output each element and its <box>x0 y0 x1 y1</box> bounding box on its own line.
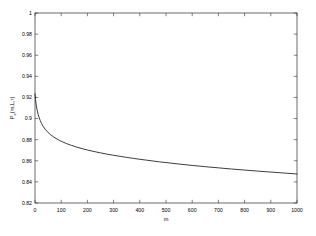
x-tick-label: 600 <box>188 207 197 213</box>
x-tick-label: 700 <box>214 207 223 213</box>
y-tick-label: 0.9 <box>25 115 32 121</box>
x-tick-label: 1000 <box>291 207 303 213</box>
data-series-curve <box>35 94 297 174</box>
figure-canvas: 01002003004005006007008009001000 0.820.8… <box>0 0 316 236</box>
y-tick-label: 0.82 <box>22 200 32 206</box>
x-tick-labels: 01002003004005006007008009001000 <box>34 207 303 213</box>
x-tick-label: 800 <box>240 207 249 213</box>
y-tick-label: 0.94 <box>22 73 32 79</box>
y-tick-label: 1 <box>29 10 32 16</box>
y-tick-label: 0.98 <box>22 31 32 37</box>
x-tick-label: 900 <box>266 207 275 213</box>
x-axis-label: m <box>164 216 169 222</box>
x-tick-label: 200 <box>83 207 92 213</box>
y-tick-labels: 0.820.840.860.880.90.920.940.960.981 <box>22 10 32 206</box>
y-tick-label: 0.84 <box>22 179 32 185</box>
x-tick-label: 500 <box>162 207 171 213</box>
x-tick-label: 400 <box>135 207 144 213</box>
tick-marks <box>35 13 297 203</box>
y-axis-label: Pe(m,L,r) <box>9 97 17 120</box>
y-tick-label: 0.86 <box>22 158 32 164</box>
x-tick-label: 300 <box>109 207 118 213</box>
y-tick-label: 0.88 <box>22 137 32 143</box>
plot-box-frame <box>35 13 297 203</box>
y-tick-label: 0.92 <box>22 94 32 100</box>
x-tick-label: 100 <box>57 207 66 213</box>
y-axis-label-args: (m,L,r) <box>9 97 15 114</box>
x-tick-label: 0 <box>34 207 37 213</box>
y-axis-label-text: Pe(m,L,r) <box>9 97 17 120</box>
y-tick-label: 0.96 <box>22 52 32 58</box>
line-chart: 01002003004005006007008009001000 0.820.8… <box>0 0 316 236</box>
